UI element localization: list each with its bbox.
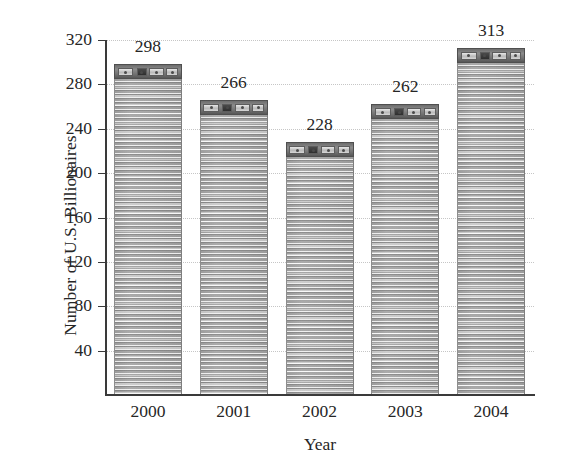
- bar-body: [200, 113, 268, 395]
- x-tick-label: 2002: [275, 401, 365, 422]
- banknote-icon: [222, 104, 232, 112]
- bar-body: [114, 77, 182, 395]
- y-tick-label: 240: [40, 120, 92, 138]
- bar-value-label: 313: [446, 20, 536, 41]
- bar-body: [286, 155, 354, 395]
- bar-value-label: 266: [189, 72, 279, 93]
- banknote-icon: [235, 104, 250, 112]
- y-tick-mark: [98, 262, 106, 263]
- banknote-icon: [308, 146, 318, 154]
- banknote-icon: [203, 104, 219, 112]
- y-tick-mark: [98, 306, 106, 307]
- banknote-stack-icon: [371, 104, 439, 119]
- bar: [114, 64, 182, 395]
- banknote-icon: [375, 108, 391, 116]
- banknote-stack-icon: [200, 100, 268, 115]
- banknote-icon: [480, 52, 490, 60]
- y-tick-label: 160: [40, 209, 92, 227]
- y-tick-label: 120: [40, 253, 92, 271]
- bar-body: [371, 117, 439, 395]
- bar-chart: Number of U.S. Billionaires 408012016020…: [0, 0, 570, 468]
- y-tick-label: 320: [40, 31, 92, 49]
- banknote-icon: [510, 52, 522, 60]
- x-tick-label: 2001: [189, 401, 279, 422]
- bar-value-label: 262: [360, 76, 450, 97]
- bar-value-label: 298: [103, 36, 193, 57]
- banknote-icon: [424, 108, 436, 116]
- banknote-icon: [289, 146, 305, 154]
- y-tick-label: 200: [40, 164, 92, 182]
- x-tick-label: 2000: [103, 401, 193, 422]
- bar: [457, 48, 525, 395]
- banknote-icon: [166, 68, 178, 76]
- bar: [371, 104, 439, 395]
- banknote-icon: [338, 146, 350, 154]
- banknote-stack-icon: [286, 142, 354, 157]
- y-tick-mark: [98, 218, 106, 219]
- y-tick-mark: [98, 84, 106, 85]
- banknote-icon: [118, 68, 134, 76]
- banknote-icon: [407, 108, 422, 116]
- banknote-icon: [461, 52, 477, 60]
- bar: [200, 100, 268, 395]
- x-axis-title: Year: [105, 434, 535, 455]
- banknote-icon: [492, 52, 507, 60]
- plot-area: [105, 40, 534, 395]
- y-tick-mark: [98, 173, 106, 174]
- y-tick-mark: [98, 351, 106, 352]
- banknote-stack-icon: [114, 64, 182, 79]
- banknote-icon: [252, 104, 264, 112]
- bar-value-label: 228: [275, 114, 365, 135]
- bar-body: [457, 61, 525, 395]
- x-tick-label: 2004: [446, 401, 536, 422]
- banknote-icon: [137, 68, 147, 76]
- x-tick-label: 2003: [360, 401, 450, 422]
- banknote-icon: [394, 108, 404, 116]
- y-tick-label: 280: [40, 75, 92, 93]
- banknote-icon: [149, 68, 164, 76]
- banknote-icon: [321, 146, 336, 154]
- x-axis-line: [105, 394, 535, 396]
- y-tick-label: 80: [40, 297, 92, 315]
- banknote-stack-icon: [457, 48, 525, 63]
- y-tick-label: 40: [40, 342, 92, 360]
- y-tick-mark: [98, 129, 106, 130]
- bar: [286, 142, 354, 395]
